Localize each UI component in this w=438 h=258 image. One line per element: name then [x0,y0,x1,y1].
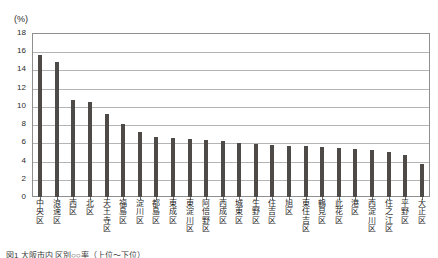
bar-slot [165,33,182,197]
bar-slot [364,33,381,197]
y-axis-tick-label: 10 [17,102,26,110]
y-axis-tick-label: 16 [17,47,26,55]
x-axis-category-label: 福島区 [117,200,129,225]
x-axis-category-label: 東住吉区 [300,200,312,234]
bar-slot [132,33,149,197]
bar [204,140,208,197]
x-axis-category-label: 東淀川区 [184,200,196,234]
x-axis-category-label: 北区 [84,200,96,217]
x-axis-category-label: 住之江区 [383,200,395,234]
bar-slot [98,33,115,197]
y-axis-tick-label: 2 [22,175,26,183]
x-axis-category-label: 西区 [67,200,79,217]
y-axis-tick-label: 14 [17,65,26,73]
x-axis-category-label: 浪速区 [51,200,63,225]
y-axis-tick-label: 4 [22,157,26,165]
bar [88,102,92,197]
y-axis-tick-label: 18 [17,29,26,37]
x-axis-category-label: 天王寺区 [101,200,113,234]
x-axis-category-label: 大正区 [416,200,428,225]
bar [188,139,192,197]
bar [254,144,258,197]
x-axis-category-label: 中央区 [34,200,46,225]
y-axis-tick-label: 6 [22,138,26,146]
bar-slot [297,33,314,197]
x-axis-category-label: 住吉区 [266,200,278,225]
bar-slot [181,33,198,197]
x-axis-category-label: 西淀川区 [366,200,378,234]
x-axis-category-label: 港区 [349,200,361,217]
y-axis-tick-label: 12 [17,84,26,92]
y-axis-unit-label: (%) [14,14,28,24]
y-axis-tick-labels: 024681012141618 [0,33,30,197]
x-axis-category-label: 阿倍野区 [200,200,212,234]
x-axis-category-label: 平野区 [399,200,411,225]
bar-slot [331,33,348,197]
x-axis-category-label: 都島区 [150,200,162,225]
bar [237,143,241,197]
bar-slot [347,33,364,197]
bar-slot [281,33,298,197]
x-axis-category-label: 旭区 [283,200,295,217]
bar-slot [148,33,165,197]
bar [387,152,391,197]
x-axis-category-labels: 中央区浪速区西区北区天王寺区福島区淀川区都島区東成区東淀川区阿倍野区西成区城東区… [32,200,430,246]
bar-slot [198,33,215,197]
x-axis-category-label: 生野区 [250,200,262,225]
bar-slot [32,33,49,197]
bar-slot [214,33,231,197]
bar-slot [413,33,430,197]
x-axis-category-label: 淀川区 [134,200,146,225]
bar-slot [82,33,99,197]
bar [171,138,175,197]
bar-slot [397,33,414,197]
bar-slot [65,33,82,197]
x-axis-category-label: 此花区 [333,200,345,225]
y-axis-tick-label: 8 [22,120,26,128]
bar [221,141,225,197]
bar-slot [314,33,331,197]
x-axis-category-label: 城東区 [233,200,245,225]
bar [353,149,357,197]
bar [287,146,291,197]
bar [270,145,274,197]
bar [304,146,308,197]
bar [154,137,158,197]
chart-figure: (%) 024681012141618 中央区浪速区西区北区天王寺区福島区淀川区… [0,0,438,258]
bar [370,150,374,197]
bar [105,114,109,197]
bar [38,55,42,197]
bar-slot [115,33,132,197]
bar [320,147,324,197]
bar-slot [264,33,281,197]
bar-slot [248,33,265,197]
bars-layer [32,33,430,197]
x-axis-category-label: 鶴見区 [316,200,328,225]
x-axis-category-label: 西成区 [217,200,229,225]
bar-slot [231,33,248,197]
bar-slot [49,33,66,197]
bar [138,132,142,197]
bar [121,124,125,197]
bar-slot [380,33,397,197]
bar [337,148,341,197]
bar [403,155,407,197]
y-axis-tick-label: 0 [22,193,26,201]
bar [71,100,75,197]
figure-caption: 図1 大阪市内 区別○○率（上位～下位） [6,249,436,258]
bar [420,164,424,197]
bar [55,62,59,197]
x-axis-category-label: 東成区 [167,200,179,225]
